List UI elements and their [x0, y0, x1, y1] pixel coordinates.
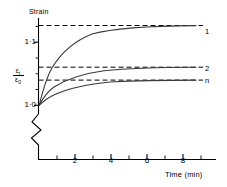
y-axis-title: Strain [29, 8, 49, 15]
y-axis-break-zigzag [32, 114, 42, 160]
curve-label-2: 2 [205, 65, 209, 73]
curve-1 [39, 26, 196, 106]
curve-2 [39, 67, 196, 105]
curve-label-n: n [205, 77, 209, 85]
x-axis-title: Time (min) [165, 171, 203, 179]
y-tick-label-1-1: 1·1 [14, 38, 36, 46]
x-tick-label-6: 6 [141, 157, 153, 165]
x-tick-label-2: 2 [69, 157, 81, 165]
ratio-denominator: ε0 [9, 76, 27, 83]
y-tick-label-1-0: 1·0 [14, 101, 36, 109]
chart-figure: Strain εt ε0 1·1 1·0 2 4 6 8 Time (min) … [0, 0, 227, 187]
x-tick-label-8: 8 [177, 157, 189, 165]
x-tick-label-4: 4 [105, 157, 117, 165]
curve-n [39, 80, 196, 105]
y-axis-ratio-label: εt ε0 [9, 67, 27, 84]
curve-label-1: 1 [205, 28, 209, 36]
ratio-numerator: εt [9, 67, 27, 74]
